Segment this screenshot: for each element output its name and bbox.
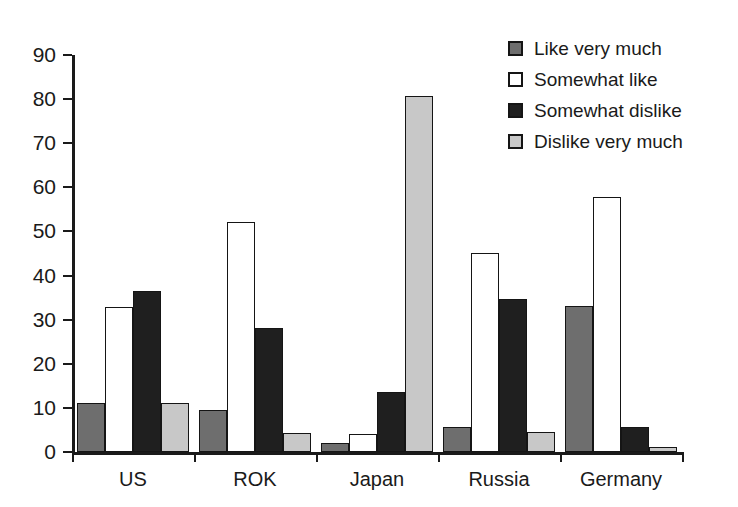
legend-item[interactable]: Dislike very much xyxy=(508,127,734,156)
y-tick-label: 0 xyxy=(44,441,56,462)
bar xyxy=(133,291,161,452)
legend-swatch-icon xyxy=(508,134,523,149)
category-label: ROK xyxy=(194,469,316,489)
x-tick xyxy=(72,452,74,462)
bar xyxy=(77,403,105,452)
bar xyxy=(499,299,527,453)
bar xyxy=(105,307,133,452)
legend-swatch-icon xyxy=(508,103,523,118)
y-tick-label: 20 xyxy=(33,353,56,374)
legend-label: Somewhat like xyxy=(534,70,658,89)
y-tick xyxy=(63,363,72,365)
x-tick xyxy=(194,452,196,462)
bar xyxy=(199,410,227,452)
x-tick xyxy=(682,452,684,462)
legend-label: Dislike very much xyxy=(534,132,683,151)
y-tick-label: 10 xyxy=(33,397,56,418)
bar xyxy=(621,427,649,452)
bar-chart: 0102030405060708090 USROKJapanRussiaGerm… xyxy=(0,0,738,507)
bar xyxy=(649,447,677,452)
bar xyxy=(405,96,433,452)
bar xyxy=(255,328,283,452)
y-tick xyxy=(63,407,72,409)
bar xyxy=(161,403,189,452)
bar xyxy=(283,433,311,452)
bar xyxy=(377,392,405,452)
y-tick xyxy=(63,54,72,56)
y-tick-label: 50 xyxy=(33,220,56,241)
x-tick xyxy=(316,452,318,462)
x-axis-line xyxy=(72,452,682,455)
legend-swatch-icon xyxy=(508,41,523,56)
legend-item[interactable]: Somewhat like xyxy=(508,65,734,94)
legend-label: Somewhat dislike xyxy=(534,101,682,120)
bar xyxy=(349,434,377,452)
bar xyxy=(321,443,349,452)
y-tick-label: 80 xyxy=(33,88,56,109)
bar xyxy=(593,197,621,452)
bar xyxy=(443,427,471,452)
y-tick-label: 30 xyxy=(33,309,56,330)
x-tick xyxy=(560,452,562,462)
y-axis-line xyxy=(72,55,75,455)
y-tick-label: 90 xyxy=(33,44,56,65)
bar xyxy=(471,253,499,452)
x-tick xyxy=(438,452,440,462)
legend-item[interactable]: Somewhat dislike xyxy=(508,96,734,125)
y-tick-label: 40 xyxy=(33,265,56,286)
bar xyxy=(527,432,555,452)
category-label: Russia xyxy=(438,469,560,489)
category-label: Germany xyxy=(560,469,682,489)
y-tick xyxy=(63,98,72,100)
y-tick xyxy=(63,230,72,232)
category-label: US xyxy=(72,469,194,489)
y-tick-label: 60 xyxy=(33,176,56,197)
bar xyxy=(565,306,593,452)
legend-label: Like very much xyxy=(534,39,662,58)
category-label: Japan xyxy=(316,469,438,489)
y-tick xyxy=(63,186,72,188)
y-tick xyxy=(63,319,72,321)
legend-swatch-icon xyxy=(508,72,523,87)
y-tick xyxy=(63,451,72,453)
y-tick xyxy=(63,142,72,144)
legend-item[interactable]: Like very much xyxy=(508,34,734,63)
bar xyxy=(227,222,255,452)
y-tick-label: 70 xyxy=(33,132,56,153)
chart-legend: Like very muchSomewhat likeSomewhat disl… xyxy=(508,34,734,158)
y-tick xyxy=(63,275,72,277)
